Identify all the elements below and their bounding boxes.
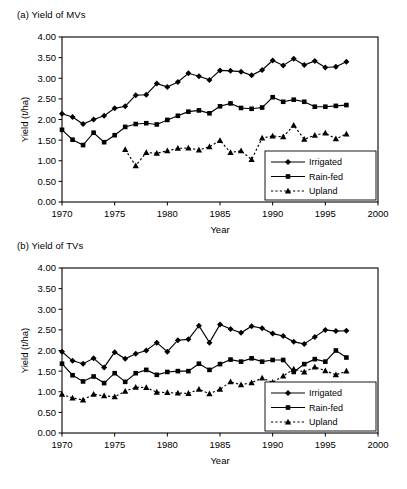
data-point [122, 388, 128, 394]
data-point [238, 381, 244, 387]
data-point [322, 367, 328, 373]
y-tick-label: 2.00 [38, 114, 57, 125]
legend-label: Upland [309, 186, 338, 196]
data-point [333, 64, 339, 70]
data-point [102, 140, 107, 145]
legend-marker [286, 405, 291, 410]
data-point [344, 355, 349, 360]
data-point [122, 146, 128, 152]
data-point [260, 105, 265, 110]
chart-panel-a: (a) Yield of MVs 0.000.501.001.502.002.5… [0, 0, 407, 245]
data-point [333, 328, 339, 334]
data-point [322, 130, 328, 136]
data-point [197, 108, 202, 113]
y-tick-label: 0.00 [38, 196, 57, 207]
data-point [217, 386, 223, 392]
data-point [217, 322, 223, 328]
data-point [281, 99, 286, 104]
data-point [313, 357, 318, 362]
data-point [164, 84, 170, 90]
y-tick-label: 1.00 [38, 386, 57, 397]
data-point [207, 368, 212, 373]
data-point [270, 331, 276, 337]
y-tick-label: 3.00 [38, 304, 57, 315]
y-tick-label: 4.00 [38, 31, 57, 42]
data-point [227, 149, 233, 155]
data-point [291, 122, 297, 128]
data-point [343, 59, 349, 65]
legend-label: Upland [309, 417, 338, 427]
data-point [280, 373, 286, 379]
x-axis-title: Year [210, 455, 229, 466]
x-tick-label: 1995 [315, 439, 336, 450]
data-point [196, 73, 202, 79]
data-point [112, 371, 117, 376]
data-point [176, 113, 181, 118]
legend-label: Irrigated [309, 388, 342, 398]
data-point [164, 148, 170, 154]
chart-panel-b: (b) Yield of TVs 0.000.501.001.502.002.5… [0, 231, 407, 489]
data-point [239, 106, 244, 111]
data-point [60, 128, 65, 133]
x-tick-label: 1975 [104, 439, 125, 450]
legend-label: Rain-fed [309, 172, 343, 182]
data-point [281, 358, 286, 363]
chart-legend[interactable]: IrrigatedRain-fedUpland [265, 382, 376, 431]
data-point [70, 114, 76, 120]
data-point [249, 72, 255, 78]
data-point [334, 104, 339, 109]
y-tick-label: 0.50 [38, 176, 57, 187]
data-point [80, 361, 86, 367]
data-point [133, 371, 138, 376]
data-point [322, 65, 328, 71]
data-point [312, 364, 318, 370]
data-point [313, 104, 318, 109]
y-tick-label: 3.50 [38, 52, 57, 63]
y-tick-label: 2.50 [38, 324, 57, 335]
data-point [228, 68, 234, 74]
x-tick-label: 1995 [315, 208, 336, 219]
data-point [238, 330, 244, 336]
data-point [112, 133, 117, 138]
data-point [270, 95, 275, 100]
y-tick-label: 4.00 [38, 262, 57, 273]
data-point [312, 58, 318, 64]
data-point [217, 137, 223, 143]
x-tick-label: 1990 [262, 439, 283, 450]
data-point [91, 117, 97, 123]
x-tick-label: 1970 [51, 439, 72, 450]
y-tick-label: 1.50 [38, 366, 57, 377]
data-point [301, 62, 307, 68]
x-tick-label: 2000 [367, 208, 388, 219]
data-point [238, 69, 244, 75]
x-tick-label: 1970 [51, 208, 72, 219]
data-point [59, 111, 65, 117]
x-tick-label: 1985 [209, 208, 230, 219]
data-point [197, 361, 202, 366]
data-point [101, 393, 107, 399]
data-point [164, 389, 170, 395]
data-point [259, 135, 265, 141]
data-point [343, 368, 349, 374]
data-point [60, 361, 65, 366]
data-point [238, 148, 244, 154]
data-point [143, 384, 149, 390]
x-tick-label: 1985 [209, 439, 230, 450]
data-point [343, 328, 349, 334]
y-axis-title: Yield (t/ha) [19, 328, 30, 374]
data-point [207, 111, 212, 116]
data-point [102, 381, 107, 386]
data-point [123, 380, 128, 385]
data-point [196, 386, 202, 392]
data-point [301, 341, 307, 347]
y-tick-label: 1.50 [38, 135, 57, 146]
chart-b-svg: 0.000.501.001.502.002.503.003.504.001970… [0, 231, 407, 489]
data-point [91, 130, 96, 135]
legend-label: Rain-fed [309, 403, 343, 413]
data-point [259, 325, 265, 331]
data-point [249, 106, 254, 111]
data-point [144, 368, 149, 373]
data-point [155, 373, 160, 378]
chart-legend[interactable]: IrrigatedRain-fedUpland [265, 151, 376, 200]
data-point [206, 143, 212, 149]
